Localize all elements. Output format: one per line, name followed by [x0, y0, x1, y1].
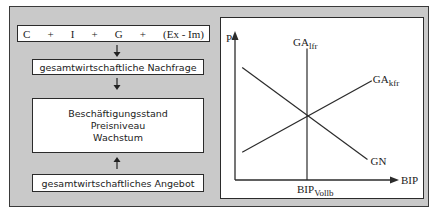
label-ga-lfr: GAlfr	[293, 36, 317, 51]
y-axis-arrow-icon	[232, 31, 239, 40]
y-axis-label: P	[226, 32, 232, 44]
x-axis-label: BIP	[401, 174, 418, 186]
ad-as-chart: PBIPGAlfrGAkfrGNBIPVollb	[0, 0, 439, 219]
label-gn: GN	[370, 155, 386, 167]
x-tick-label-bip-vollb: BIPVollb	[297, 183, 334, 198]
x-axis-arrow-icon	[390, 177, 399, 184]
label-ga-kfr: GAkfr	[373, 73, 399, 88]
series-line-gn	[242, 68, 367, 160]
